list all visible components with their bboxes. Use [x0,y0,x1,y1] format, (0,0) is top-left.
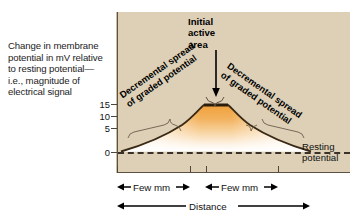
y-tick-label-0: 0 [88,148,110,157]
x-tick-3 [278,166,279,173]
few-mm-right-label: Few mm [221,183,258,193]
x-tick-2 [206,166,207,173]
few-mm-left-label: Few mm [133,183,170,193]
y-tick-10 [111,116,117,117]
y-tick-15 [111,104,117,105]
resting-potential-line-2: potential [302,152,338,163]
y-axis-caption: Change in membrane potential in mV relat… [8,40,108,98]
x-axis [117,172,350,173]
resting-potential-label: Resting potential [302,141,338,163]
y-tick-label-5: 5 [88,124,110,133]
measure-arrows [0,176,360,219]
distance-label: Distance [189,202,227,212]
graded-potential-figure: Change in membrane potential in mV relat… [0,0,360,219]
y-tick-label-10: 10 [88,112,110,121]
initial-active-area-line-1: Initial [188,16,215,27]
x-tick-0 [117,166,118,173]
resting-potential-line-1: Resting [302,141,338,152]
initial-active-area-arrow [211,50,221,98]
y-tick-5 [111,128,117,129]
y-tick-0 [111,152,117,153]
initial-active-area-line-2: active [188,27,215,38]
x-tick-1 [190,166,191,173]
y-tick-label-15: 15 [88,100,110,109]
distance-measures: Few mm Few mm Distance [0,176,360,219]
